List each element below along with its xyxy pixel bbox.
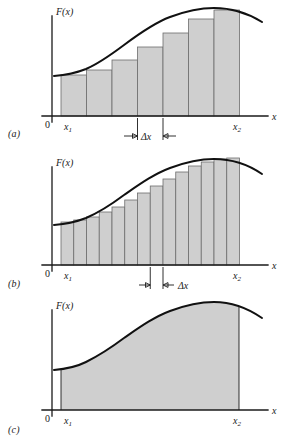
- panel-c: F(x) x 0 x1 x2: [0, 300, 298, 445]
- x1-label: x1: [63, 415, 72, 428]
- panel-b-caption: (b): [8, 278, 20, 289]
- x-axis-label: x: [271, 260, 277, 271]
- delta-x-annotation: Δx: [124, 118, 176, 142]
- bar: [112, 207, 125, 265]
- bar: [125, 200, 138, 265]
- x2-label: x2: [232, 121, 241, 134]
- x-axis-label: x: [271, 111, 277, 122]
- x1-label: x1: [63, 121, 72, 134]
- x1-label: x1: [63, 270, 72, 283]
- panel-b-bars: [61, 158, 240, 265]
- bar: [163, 33, 189, 116]
- x2-label: x2: [232, 270, 241, 283]
- bar: [87, 70, 113, 116]
- y-axis-label: F(x): [55, 157, 74, 169]
- panel-c-plot: F(x) x 0 x1 x2: [0, 300, 298, 445]
- bar: [87, 217, 100, 265]
- panel-a-caption: (a): [8, 128, 20, 139]
- bar: [138, 47, 164, 116]
- bar: [214, 10, 240, 116]
- riemann-sum-figure: F(x) x 0 x1 x2 | style (arrows pointing …: [0, 0, 298, 445]
- delta-x-label: Δx: [177, 280, 189, 291]
- x2-label: x2: [232, 415, 241, 428]
- origin-label: 0: [45, 119, 50, 130]
- bar: [150, 186, 163, 265]
- y-axis-label: F(x): [55, 300, 74, 312]
- bar: [176, 172, 189, 265]
- bar: [189, 19, 215, 116]
- bar: [112, 60, 138, 116]
- origin-label: 0: [45, 268, 50, 279]
- panel-a-plot: F(x) x 0 x1 x2 | style (arrows pointing …: [0, 0, 298, 155]
- origin-label: 0: [45, 413, 50, 424]
- bar: [214, 159, 227, 265]
- bar: [61, 75, 87, 116]
- exact-area-region: [61, 302, 239, 410]
- bar: [61, 222, 74, 265]
- bar: [227, 158, 240, 265]
- y-axis-label: F(x): [55, 6, 74, 18]
- bar: [99, 212, 112, 265]
- x-axis-label: x: [271, 405, 277, 416]
- bar: [189, 166, 202, 265]
- bar: [74, 220, 87, 265]
- panel-b: F(x) x 0 x1 x2 Δx: [0, 155, 298, 300]
- panel-a: F(x) x 0 x1 x2 | style (arrows pointing …: [0, 0, 298, 155]
- delta-x-label: Δx: [140, 131, 152, 142]
- bar: [163, 179, 176, 265]
- bar: [201, 162, 214, 265]
- bar: [138, 193, 151, 265]
- delta-x-annotation: Δx: [139, 267, 189, 291]
- panel-c-caption: (c): [8, 424, 20, 435]
- panel-b-plot: F(x) x 0 x1 x2 Δx: [0, 155, 298, 300]
